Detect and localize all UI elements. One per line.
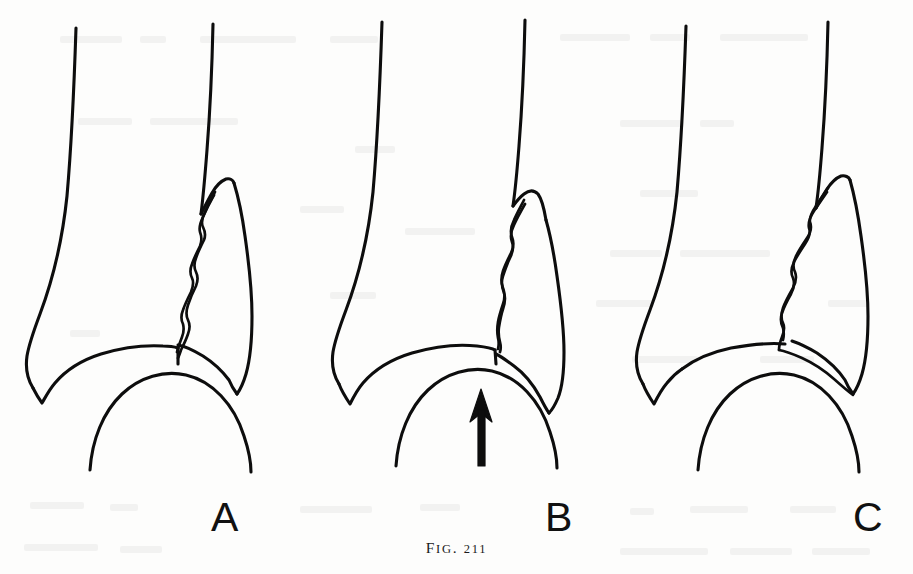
panel-group: A B [0,0,913,574]
panel-b-drawing [303,0,613,500]
fracture-line-c-secondary [781,192,827,340]
talus-dome-a [90,373,251,472]
figure-caption: FIG. 211 [0,539,913,557]
tibia-lateral-cortex-b [513,20,525,206]
panel-a-drawing [0,0,310,500]
panel-label-c: C [853,497,883,538]
fibula-lateral-border-a [234,183,252,394]
caption-separator: . [453,539,464,556]
panel-label-a: A [211,497,239,538]
medial-malleolus-tip-c [643,369,682,404]
arrow-shaft-b [478,410,485,466]
caption-fig-smallcaps: IG [436,542,453,556]
lateral-malleolus-tip-b [496,354,549,413]
tibia-lateral-cortex-c [816,22,828,208]
figure-page: A B [0,0,913,574]
fracture-line-b [497,200,524,349]
fibula-lateral-border-b [546,220,564,413]
fibular-notch-c [816,176,850,208]
arrow-indicator-b [470,389,492,466]
tibia-medial-cortex-c [636,26,686,384]
fracture-line-c [779,188,828,350]
talus-dome-c [698,373,859,472]
tibia-medial-cortex-b [332,22,382,384]
fracture-fragment-margin-c [779,350,853,395]
caption-fig-capital: F [426,539,436,556]
tibia-medial-cortex-a [26,28,76,388]
plafond-lateral-step-b [495,350,496,364]
tibia-lateral-cortex-a [201,24,213,214]
caption-fig-word: FIG [426,539,453,556]
panel-label-b: B [545,497,573,538]
medial-malleolus-and-plafond-b [339,345,495,404]
tibial-plafond-c [682,344,785,369]
lateral-malleolus-tip-a [178,345,237,394]
caption-figure-number: 211 [464,542,487,556]
panel-c-drawing [613,0,913,500]
fibula-lateral-border-c [850,180,868,394]
